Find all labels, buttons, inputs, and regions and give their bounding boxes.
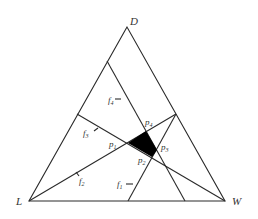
label-p3: p3 (160, 142, 169, 153)
ternary-diagram: D L W f4 f3 f2 f1 p4 p1 p3 p2 (0, 0, 258, 219)
vertex-label-d: D (129, 15, 138, 27)
label-f4: f4 (108, 95, 114, 106)
diagram-canvas: D L W f4 f3 f2 f1 p4 p1 p3 p2 (0, 0, 258, 219)
label-p4: p4 (144, 117, 153, 128)
label-f2: f2 (79, 176, 85, 187)
outer-triangle (29, 27, 225, 201)
label-p2: p2 (137, 155, 146, 166)
vertex-label-w: W (232, 195, 242, 207)
label-f1: f1 (117, 179, 123, 190)
vertex-label-l: L (15, 195, 22, 207)
f3-tick (94, 128, 98, 131)
label-f3: f3 (83, 128, 89, 139)
label-p1: p1 (108, 139, 117, 150)
line-f2 (29, 114, 176, 201)
